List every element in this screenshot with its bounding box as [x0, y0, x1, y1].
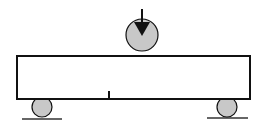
three-point-bending-diagram [0, 0, 265, 127]
beam-specimen [17, 56, 250, 99]
